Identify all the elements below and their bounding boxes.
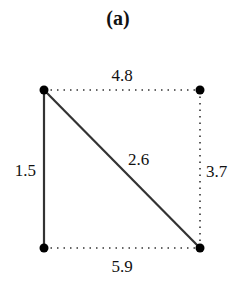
label-diagonal: 2.6 [128, 150, 149, 169]
label-bottom: 5.9 [111, 257, 132, 276]
label-top: 4.8 [111, 66, 132, 85]
graph-diagram: (a) 4.8 1.5 2.6 3.7 5.9 [0, 0, 237, 285]
node-top-left [40, 86, 49, 95]
node-top-right [196, 86, 205, 95]
figure-title: (a) [106, 7, 129, 30]
label-right: 3.7 [206, 162, 228, 181]
edge-diagonal [44, 90, 200, 248]
node-bottom-right [196, 244, 205, 253]
label-left: 1.5 [15, 161, 36, 180]
node-bottom-left [40, 244, 49, 253]
